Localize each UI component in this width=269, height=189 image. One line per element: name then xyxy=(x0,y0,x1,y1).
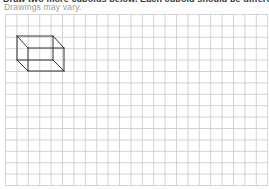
example-cuboid-drawing xyxy=(17,36,64,71)
cuboid-edge xyxy=(17,60,28,71)
cuboid-edge xyxy=(17,36,28,48)
drawing-grid[interactable] xyxy=(0,0,269,189)
grid-lines xyxy=(6,15,268,186)
